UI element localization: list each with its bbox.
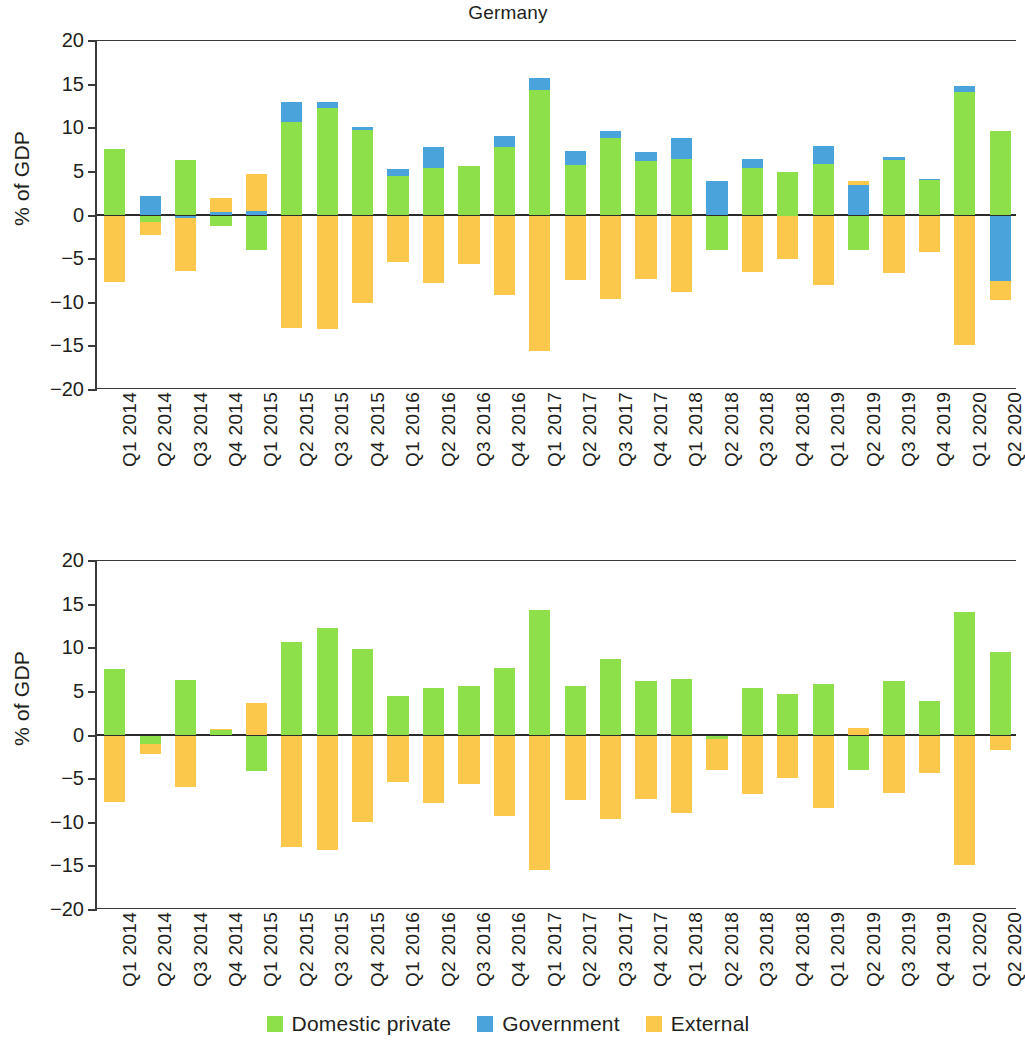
bar-column[interactable] — [883, 41, 904, 388]
y-axis-tick-label: 10 — [62, 635, 84, 659]
bar-column[interactable] — [423, 41, 444, 388]
bar-column[interactable] — [210, 41, 231, 388]
bar-column[interactable] — [423, 561, 444, 908]
bar-group-bottom — [97, 561, 1016, 908]
bar-segment — [104, 149, 125, 215]
bar-segment — [990, 652, 1011, 736]
y-axis-tick-mark — [88, 345, 97, 347]
bar-segment — [600, 216, 621, 300]
bar-column[interactable] — [883, 561, 904, 908]
bar-segment — [246, 211, 267, 215]
x-axis-tick-label: Q4 2016 — [509, 912, 529, 987]
legend-item[interactable]: Domestic private — [267, 1012, 452, 1036]
bar-segment — [423, 736, 444, 803]
bar-column[interactable] — [140, 41, 161, 388]
bar-segment — [813, 146, 834, 164]
bar-column[interactable] — [990, 561, 1011, 908]
bar-column[interactable] — [635, 41, 656, 388]
bar-segment — [140, 744, 161, 754]
bar-column[interactable] — [813, 41, 834, 388]
legend-item-label: External — [671, 1012, 750, 1036]
bar-column[interactable] — [671, 41, 692, 388]
bar-column[interactable] — [246, 41, 267, 388]
bar-segment — [423, 147, 444, 167]
y-axis-tick-mark — [88, 40, 97, 42]
x-axis-labels-bottom: Q1 2014Q2 2014Q3 2014Q4 2014Q1 2015Q2 20… — [95, 912, 1016, 1017]
bar-column[interactable] — [777, 561, 798, 908]
bar-segment — [848, 216, 869, 251]
bar-column[interactable] — [352, 561, 373, 908]
bar-segment — [954, 86, 975, 91]
bar-column[interactable] — [529, 561, 550, 908]
legend-item[interactable]: Government — [477, 1012, 620, 1036]
bar-column[interactable] — [919, 561, 940, 908]
bar-segment — [954, 92, 975, 216]
bar-column[interactable] — [742, 561, 763, 908]
bar-column[interactable] — [458, 41, 479, 388]
bar-column[interactable] — [777, 41, 798, 388]
x-axis-tick-label: Q4 2015 — [368, 392, 388, 467]
bar-column[interactable] — [317, 561, 338, 908]
x-axis-tick-label: Q2 2020 — [1005, 912, 1025, 987]
bar-column[interactable] — [706, 561, 727, 908]
x-axis-tick-label: Q1 2018 — [686, 392, 706, 467]
x-axis-tick-label: Q2 2016 — [439, 912, 459, 987]
bar-segment — [458, 736, 479, 785]
bar-column[interactable] — [175, 41, 196, 388]
bar-column[interactable] — [494, 41, 515, 388]
bar-column[interactable] — [104, 561, 125, 908]
bar-column[interactable] — [919, 41, 940, 388]
bar-segment — [352, 216, 373, 303]
bar-column[interactable] — [954, 561, 975, 908]
bar-column[interactable] — [458, 561, 479, 908]
bar-column[interactable] — [246, 561, 267, 908]
bar-segment — [883, 736, 904, 794]
bar-column[interactable] — [494, 561, 515, 908]
bar-segment — [175, 160, 196, 216]
bar-segment — [848, 728, 869, 736]
bar-column[interactable] — [813, 561, 834, 908]
y-axis-tick-mark — [88, 215, 97, 217]
bar-column[interactable] — [210, 561, 231, 908]
bar-column[interactable] — [387, 561, 408, 908]
bar-column[interactable] — [954, 41, 975, 388]
bar-column[interactable] — [742, 41, 763, 388]
y-axis-tick-label: 15 — [62, 592, 84, 616]
y-axis-tick-mark — [88, 84, 97, 86]
bar-column[interactable] — [175, 561, 196, 908]
bar-segment — [813, 164, 834, 215]
bar-segment — [352, 127, 373, 130]
bar-segment — [246, 216, 267, 251]
bar-segment — [352, 649, 373, 735]
bar-column[interactable] — [600, 41, 621, 388]
legend-swatch-domestic-private — [267, 1016, 283, 1032]
bar-column[interactable] — [600, 561, 621, 908]
bar-column[interactable] — [352, 41, 373, 388]
bar-segment — [742, 159, 763, 168]
x-axis-tick-label: Q1 2015 — [261, 392, 281, 467]
x-axis-tick-label: Q3 2019 — [899, 912, 919, 987]
bar-column[interactable] — [281, 561, 302, 908]
bar-column[interactable] — [317, 41, 338, 388]
bar-segment — [494, 668, 515, 735]
bar-column[interactable] — [848, 41, 869, 388]
bar-column[interactable] — [565, 41, 586, 388]
bar-column[interactable] — [281, 41, 302, 388]
bar-segment — [317, 108, 338, 215]
y-axis-tick-mark — [88, 389, 97, 391]
bar-column[interactable] — [990, 41, 1011, 388]
bar-column[interactable] — [387, 41, 408, 388]
bar-segment — [104, 669, 125, 735]
bar-column[interactable] — [529, 41, 550, 388]
bar-column[interactable] — [706, 41, 727, 388]
bar-segment — [317, 628, 338, 735]
bar-column[interactable] — [671, 561, 692, 908]
x-axis-tick-label: Q2 2014 — [155, 912, 175, 987]
y-axis-tick-mark — [88, 647, 97, 649]
bar-column[interactable] — [140, 561, 161, 908]
bar-column[interactable] — [104, 41, 125, 388]
legend-item[interactable]: External — [646, 1012, 750, 1036]
bar-column[interactable] — [635, 561, 656, 908]
bar-column[interactable] — [565, 561, 586, 908]
bar-column[interactable] — [848, 561, 869, 908]
